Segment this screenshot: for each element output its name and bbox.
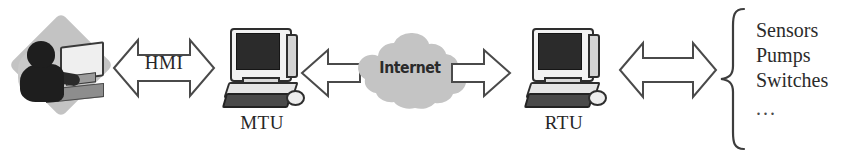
rtu-label: RTU — [509, 112, 619, 134]
operator-at-workstation-icon — [16, 24, 108, 110]
field-devices-list: Sensors Pumps Switches ... — [756, 18, 852, 123]
operator-head — [27, 41, 55, 68]
mtu-keyboard-icon — [222, 93, 292, 108]
rtu-monitor-side-panel — [588, 34, 600, 78]
internet-label: Internet — [355, 58, 464, 77]
operator-body — [20, 64, 64, 102]
rtu-monitor-screen — [538, 33, 582, 70]
connector-hmi-label: HMI — [112, 52, 216, 74]
mtu-label: MTU — [207, 112, 317, 134]
rtu-computer-icon — [526, 28, 602, 108]
field-devices-brace — [716, 6, 750, 152]
list-item: Switches — [756, 68, 852, 93]
list-item: Sensors — [756, 18, 852, 43]
connector-rtu-to-field-arrow — [618, 34, 718, 106]
rtu-mouse-icon — [588, 90, 607, 106]
rtu-keyboard-icon — [524, 93, 594, 108]
mtu-computer-icon — [224, 28, 300, 108]
list-item-ellipsis: ... — [756, 93, 852, 123]
mtu-monitor-screen — [236, 33, 280, 70]
mtu-monitor-side-panel — [286, 34, 298, 78]
list-item: Pumps — [756, 43, 852, 68]
connector-internet-to-rtu-arrow — [450, 42, 512, 104]
scada-architecture-diagram: HMI MTU Internet RTU — [0, 0, 855, 158]
